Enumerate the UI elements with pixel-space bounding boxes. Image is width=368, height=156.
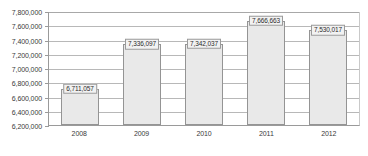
- y-axis-tick-label: 7,200,000: [12, 51, 42, 58]
- x-axis-tick-label: 2009: [123, 130, 161, 150]
- bar-chart: 7,800,0007,600,0007,400,0007,200,0007,00…: [0, 0, 368, 156]
- y-axis-tick-label: 6,400,000: [12, 108, 42, 115]
- y-axis-tick-label: 6,600,000: [12, 94, 42, 101]
- bar[interactable]: 7,530,017: [309, 30, 347, 125]
- x-axis-tick-label: 2010: [185, 130, 223, 150]
- bar-slot: 7,336,097: [123, 12, 161, 125]
- bar-value-label: 7,666,663: [249, 15, 283, 26]
- bar[interactable]: 6,711,057: [61, 89, 99, 125]
- bar-value-label: 7,530,017: [311, 25, 345, 36]
- bar-slot: 7,530,017: [309, 12, 347, 125]
- bar-slot: 7,666,663: [247, 12, 285, 125]
- bar-slot: 6,711,057: [61, 12, 99, 125]
- y-axis-tick-label: 7,400,000: [12, 37, 42, 44]
- bar[interactable]: 7,336,097: [123, 44, 161, 125]
- bar[interactable]: 7,342,037: [185, 44, 223, 125]
- y-axis-tick-label: 7,600,000: [12, 23, 42, 30]
- x-axis-tick-label: 2008: [60, 130, 98, 150]
- x-axis-tick-label: 2011: [247, 130, 285, 150]
- bar-slot: 7,342,037: [185, 12, 223, 125]
- y-axis-tick-label: 7,000,000: [12, 66, 42, 73]
- x-axis: 20082009201020112012: [48, 130, 360, 150]
- y-axis: 7,800,0007,600,0007,400,0007,200,0007,00…: [0, 12, 46, 126]
- bar-value-label: 6,711,057: [63, 83, 97, 94]
- plot-area: 6,711,0577,336,0977,342,0377,666,6637,53…: [48, 12, 360, 126]
- y-axis-tick-label: 6,800,000: [12, 80, 42, 87]
- bar-value-label: 7,342,037: [187, 38, 221, 49]
- y-axis-tick-label: 7,800,000: [12, 9, 42, 16]
- bar-series: 6,711,0577,336,0977,342,0377,666,6637,53…: [49, 12, 359, 125]
- y-axis-tick-label: 6,200,000: [12, 123, 42, 130]
- bar[interactable]: 7,666,663: [247, 21, 285, 125]
- x-axis-tick-label: 2012: [310, 130, 348, 150]
- y-axis-tick-mark: [45, 126, 49, 127]
- bar-value-label: 7,336,097: [125, 39, 159, 50]
